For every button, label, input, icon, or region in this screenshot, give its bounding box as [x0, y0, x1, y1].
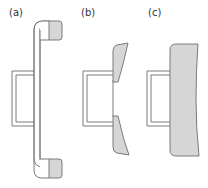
panel-b-bottom-wedge [113, 116, 129, 155]
panel-a-bottom-cap-gray [49, 159, 62, 178]
panel-a [12, 21, 62, 178]
panel-a-stem [34, 21, 50, 167]
panel-a-top-cap-gray [49, 21, 62, 40]
panel-a-bracket [12, 71, 34, 126]
panel-c-block [170, 44, 199, 156]
panel-label-b: (b) [81, 7, 95, 18]
panel-b [83, 43, 129, 155]
panel-b-bracket [83, 71, 113, 126]
panel-b-top-wedge [113, 43, 128, 82]
diagram-canvas: (a) (b) (c) [0, 0, 208, 188]
panel-c-bracket [147, 71, 170, 126]
panel-label-c: (c) [148, 7, 161, 18]
panel-c [147, 44, 199, 156]
panel-label-a: (a) [9, 7, 23, 18]
